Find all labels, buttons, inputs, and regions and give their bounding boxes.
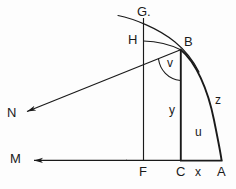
point-label-F: F	[139, 165, 147, 178]
segment-label-x: x	[195, 166, 201, 178]
diagram-canvas	[0, 0, 236, 189]
region-label-u: u	[195, 126, 202, 138]
point-label-C: C	[176, 165, 185, 178]
ray-bn	[27, 50, 180, 112]
point-label-A: A	[217, 165, 226, 178]
geometric-diagram: G. H B N M F C A v y u z x	[0, 0, 236, 189]
point-label-H: H	[128, 33, 137, 46]
point-label-N: N	[7, 106, 16, 119]
point-label-M: M	[10, 152, 21, 165]
point-label-G: G.	[137, 5, 151, 18]
angle-label-v: v	[167, 57, 173, 69]
segment-label-y: y	[169, 104, 175, 116]
point-label-B: B	[184, 35, 193, 48]
arc-label-z: z	[215, 94, 221, 106]
